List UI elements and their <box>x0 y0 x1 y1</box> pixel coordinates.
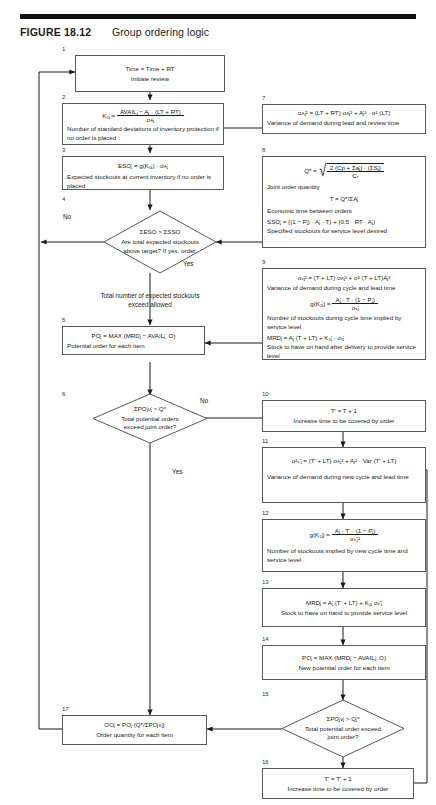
node-number-10: 10 <box>262 391 269 397</box>
node-13-equation: MRDⱼ = Aⱼ (T' + LT) + K₂ⱼ σₓ'ⱼ <box>267 599 421 608</box>
node-7-caption: Variance of demand during lead and revie… <box>267 119 421 128</box>
node-4-note: Total number of expected stockouts excee… <box>90 291 210 309</box>
node-9-caption-1: Variance of demand during cycle and lead… <box>267 284 421 293</box>
node-2-equation: K₀ⱼ = AVAILⱼ − Aⱼ · (LT + RT) σᴀⱼ <box>67 108 219 124</box>
node-4-branch-no: No <box>63 213 71 220</box>
node-9-equation-3: MRDⱼ = Aⱼ (T + LT) + K₂ⱼ · σₓⱼ <box>267 334 421 343</box>
node-8-caption-2: Economic time between orders <box>267 207 421 216</box>
node-9-caption-2: Number of stockouts during cycle time im… <box>267 314 421 332</box>
node-number-17: 17 <box>62 706 69 712</box>
node-6-caption: Total potential orders exceed joint orde… <box>120 415 180 432</box>
node-box-14: POⱼ = MAX (MRDⱼ − AVAILⱼ, O) New potenti… <box>262 645 426 680</box>
node-1-caption: Initiate review <box>80 75 220 84</box>
node-17-caption: Order quantity for each item <box>67 731 202 740</box>
node-number-2: 2 <box>62 94 65 100</box>
node-number-3: 3 <box>62 147 65 153</box>
node-9-equation-2: g(K₂ⱼ) = Aⱼ · T · (1 − Pⱼ) σₓⱼ <box>267 296 421 312</box>
node-box-17: OOⱼ = POⱼ (Q*/ΣPOⱼνⱼ) Order quantity for… <box>62 715 207 745</box>
node-number-7: 7 <box>262 95 265 101</box>
node-12-equation: g(K₂ⱼ) = Aⱼ · T' · (1 − Pⱼ) σₓ'ⱼ² <box>267 527 421 543</box>
node-9-numerator: Aⱼ · T · (1 − Pⱼ) <box>332 296 377 304</box>
node-6-equation: ΣPOⱼνⱼ > Q* <box>134 405 166 414</box>
figure-canvas: FIGURE 18.12 Group ordering logic <box>0 0 436 805</box>
node-2-eq-lhs: K₀ⱼ = <box>102 112 115 119</box>
node-diamond-6: ΣPOⱼνⱼ > Q* Total potential orders excee… <box>93 394 207 443</box>
node-10-equation: T' = T + 1 <box>267 407 421 416</box>
node-12-numerator: Aⱼ · T' · (1 − Pⱼ) <box>332 527 379 535</box>
node-8-equation-1: Q* = √ 2 (Cp + Σaⱼ) · (ΣSⱼ) Cᵣ <box>267 163 421 180</box>
node-2-caption: Number of standard deviations of invento… <box>67 125 219 143</box>
node-5-caption: Potential order for each item <box>67 342 200 351</box>
node-box-8: Q* = √ 2 (Cp + Σaⱼ) · (ΣSⱼ) Cᵣ Joint ord… <box>262 156 426 248</box>
node-box-13: MRDⱼ = Aⱼ (T' + LT) + K₂ⱼ σₓ'ⱼ Stock to … <box>262 588 426 627</box>
node-2-denominator: σᴀⱼ <box>117 116 184 123</box>
node-box-11: σ²ₓ'ⱼ = (T' + LT) σᴀⱼ² + Aⱼ² · Var (T' +… <box>262 447 426 503</box>
node-number-4: 4 <box>62 196 65 202</box>
node-12-denominator: σₓ'ⱼ² <box>332 535 379 542</box>
node-12-eq-lhs: g(K₂ⱼ) = <box>310 531 330 538</box>
node-8-caption-3: Specified stockouts for service level de… <box>267 227 421 236</box>
node-4-text: ΣESO > ΣSSO Are total expected stockouts… <box>104 211 216 273</box>
node-7-equation: σᴀⱼ² = (LT + RT) σᴀⱼ² + Aⱼ² · σ² (LT) <box>267 109 421 118</box>
node-box-10: T' = T + 1 Increase time to be covered b… <box>262 400 426 432</box>
node-box-9: σₓⱼ² = (T + LT) σᴀⱼ² + σ² (T + LT)Aⱼ² Va… <box>262 268 426 360</box>
node-number-12: 12 <box>262 510 269 516</box>
node-box-5: POⱼ = MAX (MRDⱼ − AVAILⱼ, O) Potential o… <box>62 326 205 355</box>
node-10-caption: Increase time to be covered by order <box>267 417 421 426</box>
node-number-8: 8 <box>262 147 265 153</box>
node-box-1: Time = Time + RT Initiate review <box>75 55 225 92</box>
node-12-caption: Number of stockouts implied by new cycle… <box>267 547 421 565</box>
node-box-2: K₀ⱼ = AVAILⱼ − Aⱼ · (LT + RT) σᴀⱼ Number… <box>62 103 224 145</box>
node-8-eq-lhs: Q* = <box>304 167 317 174</box>
node-diamond-4: ΣESO > ΣSSO Are total expected stockouts… <box>104 211 216 273</box>
node-9-caption-3: Stock to have on hand after delivery to … <box>267 343 421 361</box>
node-2-fraction: AVAILⱼ − Aⱼ · (LT + RT) σᴀⱼ <box>117 108 184 124</box>
node-number-6: 6 <box>62 391 65 397</box>
node-8-caption-1: Joint order quantity <box>267 183 421 192</box>
node-number-9: 9 <box>262 259 265 265</box>
node-5-equation: POⱼ = MAX (MRDⱼ − AVAILⱼ, O) <box>67 332 200 341</box>
node-13-caption: Stock to have on hand to provide service… <box>267 609 421 618</box>
node-9-eq2-lhs: g(K₂ⱼ) = <box>310 300 330 307</box>
node-14-caption: New potential order for each item <box>267 664 421 673</box>
node-box-3: ESOⱼ = g(K₀ⱼ) · σᴀⱼ Expected stockouts a… <box>62 156 224 190</box>
node-8-fraction: 2 (Cp + Σaⱼ) · (ΣSⱼ) Cᵣ <box>327 163 384 180</box>
node-8-equation-2: T = Q*/ΣAⱼ <box>267 195 421 204</box>
node-11-equation: σ²ₓ'ⱼ = (T' + LT) σᴀⱼ² + Aⱼ² · Var (T' +… <box>267 457 421 466</box>
node-14-equation: POⱼ = MAX (MRDⱼ − AVAILⱼ, O) <box>267 654 421 663</box>
node-number-16: 16 <box>262 759 269 765</box>
node-8-denominator: Cᵣ <box>327 172 384 179</box>
node-9-fraction: Aⱼ · T · (1 − Pⱼ) σₓⱼ <box>332 296 377 312</box>
node-12-fraction: Aⱼ · T' · (1 − Pⱼ) σₓ'ⱼ² <box>332 527 379 543</box>
node-1-equation: Time = Time + RT <box>80 65 220 74</box>
node-box-16: T' = T' + 1 Increase time to be covered … <box>262 768 414 799</box>
node-diamond-15: ΣPOⱼνⱼ > Qⱼ* Total potential order excee… <box>282 700 404 757</box>
node-3-caption: Expected stockouts at current inventory … <box>67 173 219 191</box>
node-6-text: ΣPOⱼνⱼ > Q* Total potential orders excee… <box>93 394 207 443</box>
node-16-caption: Increase time to be covered by order <box>267 785 409 794</box>
node-15-equation: ΣPOⱼνⱼ > Qⱼ* <box>326 715 359 724</box>
node-8-equation-3: SSOⱼ = ((1 − Pⱼ) · Aⱼ · T) + (0.5 · RT ·… <box>267 218 421 227</box>
node-box-7: σᴀⱼ² = (LT + RT) σᴀⱼ² + Aⱼ² · σ² (LT) Va… <box>262 104 426 134</box>
node-number-14: 14 <box>262 636 269 642</box>
node-box-12: g(K₂ⱼ) = Aⱼ · T' · (1 − Pⱼ) σₓ'ⱼ² Number… <box>262 519 426 572</box>
node-9-equation-1: σₓⱼ² = (T + LT) σᴀⱼ² + σ² (T + LT)Aⱼ² <box>267 274 421 283</box>
radical-icon: √ <box>320 165 327 178</box>
node-6-branch-yes: Yes <box>172 468 182 475</box>
node-number-11: 11 <box>262 438 268 444</box>
node-15-text: ΣPOⱼνⱼ > Qⱼ* Total potential order excee… <box>282 700 404 757</box>
node-17-equation: OOⱼ = POⱼ (Q*/ΣPOⱼνⱼ) <box>67 721 202 730</box>
node-2-numerator: AVAILⱼ − Aⱼ · (LT + RT) <box>117 108 184 116</box>
node-number-5: 5 <box>62 317 65 323</box>
node-15-caption: Total potential order exceed joint order… <box>304 725 382 742</box>
node-number-15: 15 <box>262 691 269 697</box>
node-number-13: 13 <box>262 579 269 585</box>
node-4-caption: Are total expected stockouts above targe… <box>117 238 203 255</box>
node-16-equation: T' = T' + 1 <box>267 775 409 784</box>
node-4-equation: ΣESO > ΣSSO <box>140 228 181 237</box>
node-11-caption: Variance of demand during new cycle and … <box>267 473 421 482</box>
node-9-denominator: σₓⱼ <box>332 304 377 311</box>
node-number-1: 1 <box>62 46 65 52</box>
node-3-equation: ESOⱼ = g(K₀ⱼ) · σᴀⱼ <box>67 162 219 171</box>
node-8-numerator: 2 (Cp + Σaⱼ) · (ΣSⱼ) <box>327 164 384 172</box>
